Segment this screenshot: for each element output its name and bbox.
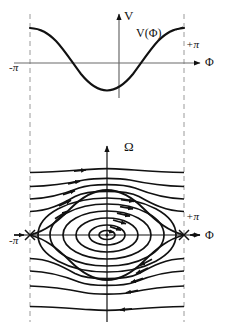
phase-y-axis-label: Ω <box>124 140 134 153</box>
figure-pendulum-phase-portrait: V V(Φ) Φ +π -π Ω Φ +π -π <box>0 0 226 328</box>
potential-y-axis-label: V <box>124 9 133 22</box>
potential-tick-plus-pi: +π <box>186 39 199 50</box>
phase-x-axis-label: Φ <box>205 229 214 241</box>
potential-curve-label: V(Φ) <box>136 27 161 39</box>
potential-panel <box>14 14 200 98</box>
phase-tick-minus-pi: -π <box>9 235 18 246</box>
flow-arrow-down-4 <box>120 309 132 310</box>
center-fixed-point <box>105 233 108 236</box>
potential-x-axis-label: Φ <box>205 56 214 68</box>
potential-tick-minus-pi: -π <box>9 62 18 73</box>
phase-tick-plus-pi: +π <box>186 211 199 222</box>
phase-panel <box>14 146 200 322</box>
